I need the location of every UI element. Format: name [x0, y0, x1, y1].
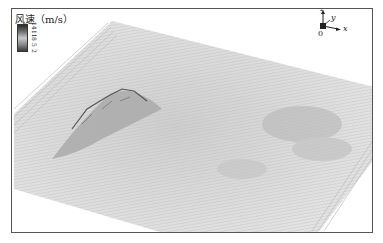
- tick-label: 14: [31, 22, 38, 30]
- y-axis-label: y: [331, 13, 336, 22]
- colorbar-ticks: 14 11 8 5 2: [30, 22, 40, 56]
- origin-label: 0: [318, 29, 323, 38]
- colorbar: [17, 24, 28, 52]
- colorbar-legend: 风速（m/s） 14 11 8 5 2: [15, 11, 73, 26]
- figure-frame: 风速（m/s） 14 11 8 5 2 z y x 0: [11, 8, 373, 233]
- x-axis-label: x: [343, 24, 348, 33]
- tick-label: 2: [31, 49, 38, 53]
- axis-indicator: z y x 0: [310, 8, 350, 43]
- tick-label: 8: [31, 37, 38, 41]
- z-axis-label: z: [320, 8, 324, 13]
- tick-label: 5: [31, 43, 38, 47]
